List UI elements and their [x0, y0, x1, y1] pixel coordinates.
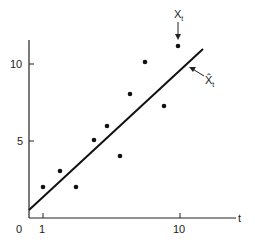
data-points [41, 44, 181, 190]
data-point [128, 92, 133, 97]
data-point [74, 185, 79, 190]
y-tick-label-10: 10 [10, 58, 22, 70]
x-tick-label-10: 10 [173, 223, 185, 235]
x-tick-label-1: 1 [39, 223, 45, 235]
scatter-chart: 0 1 10 5 10 t Xt X̂t [0, 0, 255, 242]
fitted-line [29, 49, 203, 210]
x-axis-label: t [238, 212, 241, 224]
data-point [105, 124, 110, 129]
origin-label: 0 [16, 223, 22, 235]
data-point [41, 185, 46, 190]
annotation-xt: Xt [174, 8, 183, 22]
y-tick-label-5: 5 [17, 135, 23, 147]
data-point [58, 169, 63, 174]
data-point [118, 154, 123, 159]
arrowhead-icon [175, 34, 181, 40]
data-point [176, 44, 181, 49]
data-point [162, 104, 167, 109]
data-point [143, 60, 148, 65]
annotation-xhat: X̂t [205, 73, 214, 88]
data-point [92, 138, 97, 143]
arrowhead-icon [189, 67, 196, 72]
